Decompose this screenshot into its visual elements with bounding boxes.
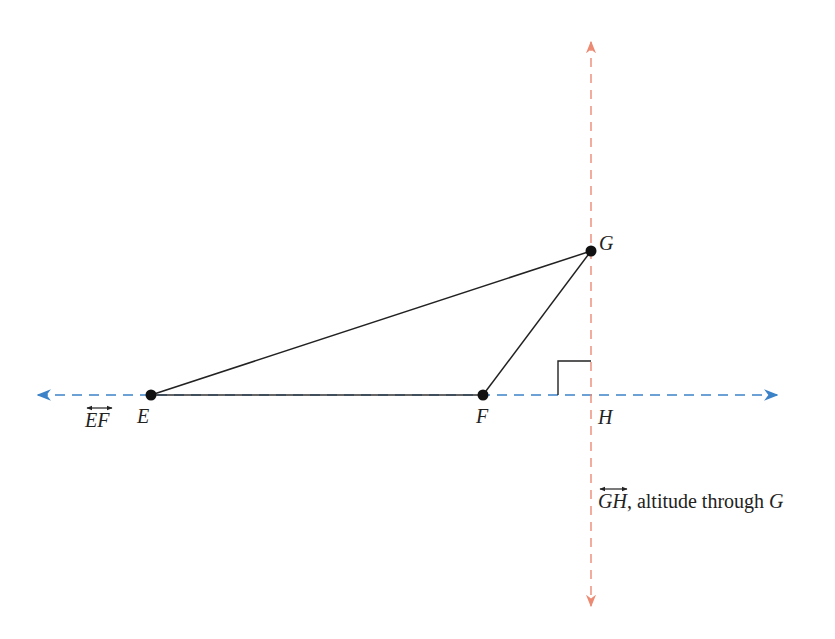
line-gh-name: GH — [598, 490, 628, 512]
caption-point: G — [769, 490, 784, 512]
label-g: G — [599, 232, 614, 254]
triangle-altitude-diagram: E F G H EF GH, altitude through G — [0, 0, 835, 639]
caption-suffix: , altitude through — [627, 490, 769, 513]
point-f — [478, 390, 489, 401]
right-angle-marker — [558, 361, 591, 395]
label-h: H — [597, 406, 614, 428]
label-f: F — [475, 405, 489, 427]
label-e: E — [136, 405, 149, 427]
point-e — [146, 390, 157, 401]
segment-eg — [151, 251, 591, 395]
line-ef-label: EF — [84, 408, 112, 431]
altitude-caption: GH, altitude through G — [598, 489, 784, 513]
point-g — [586, 246, 597, 257]
segment-fg — [483, 251, 591, 395]
altitude-caption-text: GH, altitude through G — [598, 490, 784, 513]
line-ef-name: EF — [84, 409, 110, 431]
